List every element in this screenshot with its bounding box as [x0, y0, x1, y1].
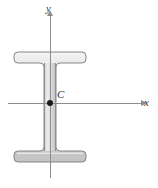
x-axis-label: x [144, 97, 149, 108]
centroid-label: C [57, 89, 64, 100]
ibeam-cross-section-shape [0, 0, 158, 188]
y-axis-line [50, 14, 51, 178]
ibeam-figure: y x C [0, 0, 158, 188]
centroid-marker-icon [47, 100, 53, 106]
x-axis-line [8, 103, 144, 104]
y-axis-label: y [46, 3, 51, 14]
